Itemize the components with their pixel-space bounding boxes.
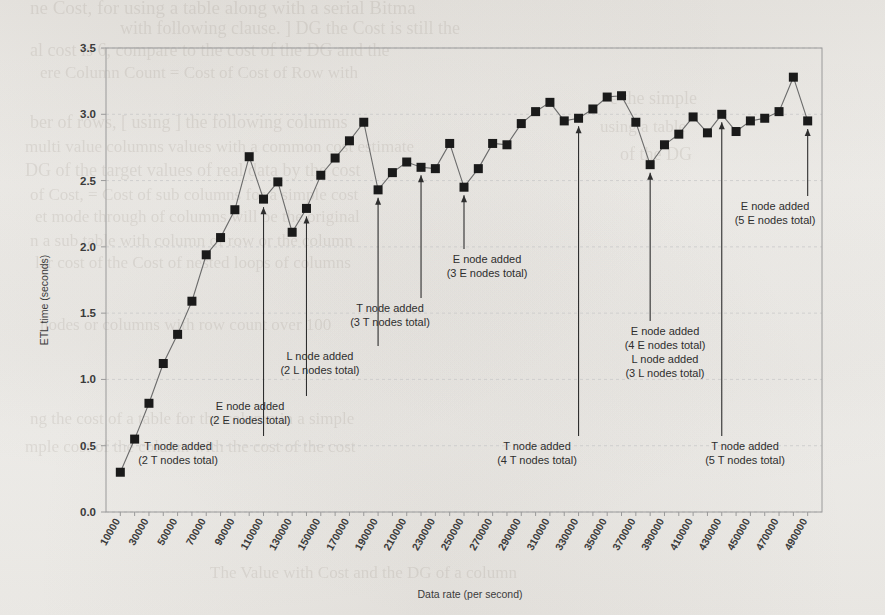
annotation-label-line: (3 L nodes total) bbox=[625, 367, 704, 379]
data-point-marker bbox=[116, 468, 125, 477]
data-point-marker bbox=[202, 250, 211, 259]
annotation-t5: T node added(5 T nodes total) bbox=[705, 122, 785, 466]
data-point-marker bbox=[588, 104, 597, 113]
data-point-marker bbox=[359, 118, 368, 127]
data-point-marker bbox=[732, 127, 741, 136]
x-tick-label: 450000 bbox=[724, 516, 752, 552]
etl-time-line-chart: 1000030000500007000090000110000130000150… bbox=[0, 0, 885, 615]
annotation-label-line: L node added bbox=[287, 350, 354, 362]
chart-container: 1000030000500007000090000110000130000150… bbox=[0, 0, 885, 615]
data-point-marker bbox=[144, 399, 153, 408]
data-point-marker bbox=[159, 359, 168, 368]
annotation-label-line: T node added bbox=[144, 440, 212, 452]
y-tick-label: 0.5 bbox=[80, 440, 97, 452]
annotation-arrow-head bbox=[647, 173, 653, 180]
data-point-marker bbox=[660, 140, 669, 149]
y-axis-ticks: 0.00.51.01.52.02.53.03.5 bbox=[80, 42, 106, 518]
data-point-marker bbox=[230, 205, 239, 214]
x-tick-label: 390000 bbox=[638, 516, 666, 552]
x-tick-label: 50000 bbox=[154, 516, 179, 547]
annotation-label-line: E node added bbox=[453, 253, 522, 265]
x-tick-label: 370000 bbox=[610, 516, 638, 552]
data-point-marker bbox=[288, 228, 297, 237]
data-point-marker bbox=[445, 139, 454, 148]
x-tick-label: 290000 bbox=[495, 516, 523, 552]
data-point-marker bbox=[631, 118, 640, 127]
x-tick-label: 90000 bbox=[212, 516, 237, 547]
data-point-marker bbox=[460, 183, 469, 192]
data-point-marker bbox=[173, 330, 182, 339]
x-tick-label: 110000 bbox=[238, 516, 266, 552]
data-point-marker bbox=[316, 171, 325, 180]
data-point-marker bbox=[574, 114, 583, 123]
annotations: T node added(2 T nodes total)E node adde… bbox=[138, 122, 815, 466]
data-point-marker bbox=[789, 73, 798, 82]
data-point-marker bbox=[517, 119, 526, 128]
x-tick-label: 470000 bbox=[753, 516, 781, 552]
data-point-marker bbox=[746, 116, 755, 125]
data-point-marker bbox=[259, 195, 268, 204]
annotation-arrow-head bbox=[304, 216, 310, 223]
annotation-arrow-head bbox=[461, 195, 467, 202]
x-tick-label: 250000 bbox=[438, 516, 466, 552]
x-tick-label: 10000 bbox=[97, 516, 122, 547]
data-point-marker bbox=[302, 204, 311, 213]
annotation-label-line: (5 E nodes total) bbox=[735, 214, 816, 226]
annotation-label-line: L node added bbox=[632, 353, 699, 365]
annotation-e2: E node added(2 E nodes total) bbox=[210, 216, 310, 426]
y-tick-label: 3.5 bbox=[80, 42, 97, 54]
annotation-arrow-head bbox=[576, 126, 582, 133]
annotation-label-line: (4 E nodes total) bbox=[625, 339, 706, 351]
annotation-label-line: (2 L nodes total) bbox=[280, 364, 359, 376]
annotation-label-line: E node added bbox=[741, 200, 810, 212]
data-point-marker bbox=[474, 164, 483, 173]
x-tick-label: 310000 bbox=[524, 516, 552, 552]
data-point-marker bbox=[402, 158, 411, 167]
x-tick-label: 70000 bbox=[183, 516, 208, 547]
data-point-marker bbox=[617, 91, 626, 100]
data-point-marker bbox=[216, 233, 225, 242]
data-point-marker bbox=[545, 98, 554, 107]
data-point-marker bbox=[674, 130, 683, 139]
data-point-marker bbox=[388, 168, 397, 177]
x-tick-label: 330000 bbox=[552, 516, 580, 552]
annotation-label-line: (2 E nodes total) bbox=[210, 414, 291, 426]
y-tick-label: 3.0 bbox=[80, 108, 96, 120]
annotation-e4l3: E node added(4 E nodes total)L node adde… bbox=[625, 173, 706, 379]
annotation-label-line: (4 T nodes total) bbox=[497, 454, 577, 466]
data-point-marker bbox=[417, 163, 426, 172]
x-axis-ticks: 1000030000500007000090000110000130000150… bbox=[97, 512, 809, 552]
annotation-e3: E node added(3 E nodes total) bbox=[447, 195, 528, 279]
data-point-marker bbox=[560, 116, 569, 125]
annotation-t2: T node added(2 T nodes total) bbox=[138, 207, 266, 466]
annotation-label-line: E node added bbox=[631, 325, 700, 337]
x-tick-label: 490000 bbox=[781, 516, 809, 552]
y-tick-label: 2.0 bbox=[80, 241, 96, 253]
data-point-marker bbox=[803, 116, 812, 125]
data-point-marker bbox=[775, 107, 784, 116]
data-point-marker bbox=[717, 110, 726, 119]
x-axis-title: Data rate (per second) bbox=[417, 588, 522, 600]
x-tick-label: 410000 bbox=[667, 516, 695, 552]
annotation-label-line: T node added bbox=[711, 440, 779, 452]
annotation-arrow-head bbox=[805, 129, 811, 136]
annotation-arrow-head bbox=[719, 122, 725, 129]
annotation-label-line: (2 T nodes total) bbox=[138, 454, 218, 466]
annotation-arrow-head bbox=[261, 207, 267, 214]
data-point-marker bbox=[488, 139, 497, 148]
data-point-marker bbox=[502, 140, 511, 149]
x-tick-label: 30000 bbox=[126, 516, 151, 547]
data-point-marker bbox=[703, 128, 712, 137]
x-tick-label: 350000 bbox=[581, 516, 609, 552]
annotation-label-line: T node added bbox=[356, 302, 424, 314]
data-point-marker bbox=[130, 435, 139, 444]
x-tick-label: 190000 bbox=[352, 516, 380, 552]
x-tick-label: 430000 bbox=[696, 516, 724, 552]
data-point-marker bbox=[345, 136, 354, 145]
data-point-marker bbox=[603, 93, 612, 102]
y-tick-label: 2.5 bbox=[80, 175, 97, 187]
x-tick-label: 130000 bbox=[266, 516, 294, 552]
annotation-arrow-head bbox=[418, 175, 424, 182]
annotation-l2: L node added(2 L nodes total) bbox=[280, 198, 381, 376]
y-tick-label: 1.0 bbox=[80, 373, 96, 385]
